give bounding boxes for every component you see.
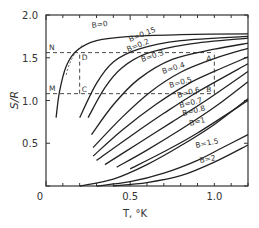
point-label-d: D — [82, 53, 88, 62]
x-axis-label: T, °K — [122, 208, 147, 219]
curve-label: B=1.5 — [195, 136, 220, 150]
y-tick-label: 2.0 — [22, 10, 38, 21]
x-tick-label: 1.0 — [206, 191, 222, 202]
y-tick-label: 1.5 — [22, 53, 38, 64]
curve-label: B=0.3 — [140, 48, 165, 64]
curve-labels: B=0B=0.15B=0.2B=0.3B=0.4B=0.5B=0.6B=0.7B… — [91, 19, 219, 165]
point-label-m: M — [49, 84, 55, 93]
curve-b-2 — [113, 145, 248, 186]
point-label-b: B — [206, 85, 211, 94]
entropy-chart: 00.51.00.51.01.52.0 B=0B=0.15B=0.2B=0.3B… — [0, 0, 259, 228]
chart-svg: 00.51.00.51.01.52.0 B=0B=0.15B=0.2B=0.3B… — [0, 0, 259, 228]
point-label-a: A — [206, 54, 212, 63]
y-axis-label: S/R — [8, 91, 21, 109]
y-tick-label: 0.5 — [22, 138, 38, 149]
y-tick-label: 1.0 — [22, 96, 38, 107]
curve-label: B=1 — [188, 115, 206, 128]
x-tick-label: 0.5 — [122, 191, 138, 202]
point-label-c: C — [82, 85, 87, 94]
curve-label: B=2 — [199, 153, 217, 165]
curve-label: B=0 — [91, 19, 109, 30]
point-label-n: N — [49, 43, 55, 52]
x-tick-label: 0 — [37, 191, 43, 202]
